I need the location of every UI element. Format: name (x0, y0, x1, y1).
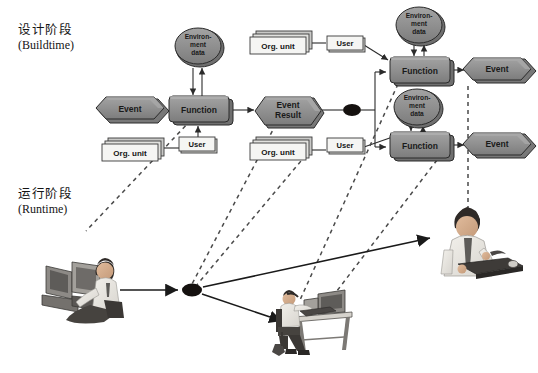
diagram-canvas: Event Function Environ- ment data Org. u… (0, 0, 538, 373)
label-user-top: User (337, 39, 354, 48)
label-event-result-2: Result (275, 110, 301, 120)
label-env-left-1: Environ- (185, 33, 212, 40)
actor-person-at-desk (272, 290, 352, 356)
connector-dot-runtime (182, 284, 202, 297)
connector-dot-buildtime (343, 104, 361, 116)
label-function-left: Function (181, 105, 217, 115)
phase-runtime-cn: 运行阶段 (18, 186, 72, 202)
label-env-left-2: ment (190, 41, 207, 48)
label-env-bottom-3: data (410, 110, 424, 117)
label-event-result-1: Event (276, 100, 299, 110)
phase-buildtime-cn: 设计阶段 (18, 22, 74, 38)
label-user-bottom: User (337, 141, 354, 150)
label-org-unit-left: Org. unit (113, 149, 147, 158)
phase-runtime-en: (Runtime) (18, 202, 72, 217)
label-env-top-3: data (412, 28, 426, 35)
actor-person-at-terminal (42, 258, 124, 324)
label-function-bottom: Function (402, 141, 438, 151)
diagram-artwork: Event Function Environ- ment data Org. u… (0, 0, 538, 373)
label-org-unit-top: Org. unit (261, 42, 295, 51)
label-event-left: Event (118, 104, 141, 114)
label-event-top: Event (485, 64, 508, 74)
label-env-top-2: ment (411, 20, 428, 27)
label-env-left-3: data (191, 49, 205, 56)
label-env-top-1: Environ- (406, 12, 433, 19)
label-env-bottom-2: ment (409, 102, 426, 109)
actor-person-standing-desk (441, 207, 523, 279)
label-function-top: Function (402, 66, 438, 76)
label-user-left: User (189, 140, 206, 149)
label-event-bottom: Event (485, 139, 508, 149)
runtime-edge-group (120, 238, 430, 321)
label-org-unit-bottom: Org. unit (261, 148, 295, 157)
label-env-bottom-1: Environ- (404, 94, 431, 101)
phase-label-runtime: 运行阶段 (Runtime) (18, 186, 72, 217)
phase-label-buildtime: 设计阶段 (Buildtime) (18, 22, 74, 53)
phase-buildtime-en: (Buildtime) (18, 38, 74, 53)
